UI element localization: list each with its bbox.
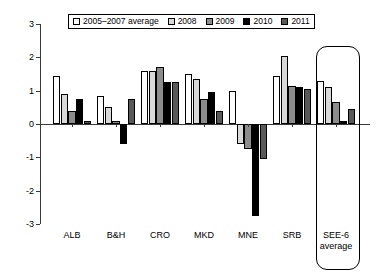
bar [76,99,83,124]
bar [273,76,280,124]
x-axis-tick [72,124,73,127]
bar [237,124,244,144]
bar [141,71,148,124]
x-axis-group-label: SEE-6average [320,230,353,252]
y-axis-tick [36,157,40,158]
plot-area: 3210-1-2-3ALBB&HCROMKDMNESRBSEE-6average [40,24,370,224]
chart-root: 2005–2007 average2008200920102011 3210-1… [0,0,382,274]
bar [304,89,311,124]
x-axis-tick [248,124,249,127]
bar [229,91,236,124]
x-axis-tick [204,124,205,127]
y-axis-tick [36,57,40,58]
bar [332,102,339,124]
x-axis-tick [116,124,117,127]
bar [156,67,163,124]
bar [105,107,112,124]
bar [288,86,295,124]
x-axis-tick [336,124,337,127]
y-axis-tick-label: -1 [26,152,34,162]
y-axis-tick [36,24,40,25]
bar [281,56,288,124]
bar [84,121,91,124]
bar [252,124,259,216]
bar [172,82,179,124]
x-axis-group-label-line1: SRB [283,230,302,241]
bar [200,99,207,124]
x-axis-group-label-line1: B&H [107,230,126,241]
x-axis-group-label: ALB [63,230,80,241]
bar [296,87,303,124]
bar [128,99,135,124]
bar [208,92,215,124]
x-axis-group-label: SRB [283,230,302,241]
bar [185,74,192,124]
bar [61,94,68,124]
y-axis-tick [36,91,40,92]
x-axis-group-label-line1: MKD [194,230,214,241]
bar [53,76,60,124]
bar [340,121,347,124]
x-axis-group-label-line1: MNE [238,230,258,241]
bar [193,79,200,124]
x-axis-group-label-line1: ALB [63,230,80,241]
y-axis-tick-label: 1 [29,86,34,96]
x-axis-group-label-line1: SEE-6 [320,230,353,241]
bar [120,124,127,144]
y-axis-tick [36,124,40,125]
bar [317,81,324,124]
y-axis-tick-label: 0 [29,119,34,129]
y-axis-tick [36,191,40,192]
y-axis-tick-label: 2 [29,52,34,62]
x-axis-group-label: B&H [107,230,126,241]
bar [260,124,267,159]
bar [348,109,355,124]
bar [325,87,332,124]
x-axis-group-label: MNE [238,230,258,241]
y-axis-tick [36,224,40,225]
x-axis-group-label-line1: CRO [150,230,170,241]
bar [149,71,156,124]
x-axis-tick [292,124,293,127]
y-axis-tick-label: -3 [26,219,34,229]
y-axis-tick-label: 3 [29,19,34,29]
bar [244,124,251,149]
x-axis-group-label: CRO [150,230,170,241]
x-axis-group-label-line2: average [320,241,353,252]
x-axis-group-label: MKD [194,230,214,241]
bar [216,111,223,124]
bar [164,82,171,124]
bar [68,111,75,124]
x-axis-tick [160,124,161,127]
bar [97,96,104,124]
zero-baseline [40,124,370,125]
y-axis-tick-label: -2 [26,186,34,196]
